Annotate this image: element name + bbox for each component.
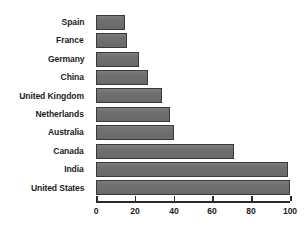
x-axis-tick-label-60: 60	[208, 205, 217, 216]
plot-area	[96, 13, 290, 197]
bar-canada	[96, 144, 234, 159]
category-label-france: France	[56, 31, 84, 49]
bar-france	[96, 33, 127, 48]
x-axis-tick-label-40: 40	[169, 205, 178, 216]
x-axis-tick	[174, 196, 176, 201]
bar-spain	[96, 15, 125, 30]
x-axis-line	[96, 201, 290, 203]
x-axis-tick	[96, 196, 98, 201]
bar-china	[96, 70, 148, 85]
category-label-china: China	[61, 68, 84, 86]
x-axis-tick-label-100: 100	[283, 205, 297, 216]
x-axis-tick-label-20: 20	[130, 205, 139, 216]
bar-australia	[96, 125, 174, 140]
category-label-canada: Canada	[54, 142, 84, 160]
category-label-india: India	[64, 160, 84, 178]
x-axis-tick	[212, 196, 214, 201]
x-axis-tick-label-80: 80	[247, 205, 256, 216]
bar-united-kingdom	[96, 88, 162, 103]
bar-india	[96, 162, 288, 177]
category-label-germany: Germany	[48, 50, 84, 68]
x-axis-tick	[135, 196, 137, 201]
bar-chart: Spain France Germany China United Kingdo…	[0, 0, 308, 233]
category-label-netherlands: Netherlands	[36, 105, 84, 123]
category-label-australia: Australia	[48, 123, 84, 141]
bar-germany	[96, 52, 139, 67]
category-label-spain: Spain	[61, 13, 84, 31]
x-axis-tick	[290, 196, 292, 201]
category-label-united-states: United States	[31, 179, 84, 197]
x-axis-tick	[251, 196, 253, 201]
category-label-united-kingdom: United Kingdom	[19, 87, 84, 105]
x-axis-tick-label-0: 0	[94, 205, 99, 216]
bar-united-states	[96, 180, 290, 195]
bar-netherlands	[96, 107, 170, 122]
category-axis-labels: Spain France Germany China United Kingdo…	[0, 13, 89, 197]
